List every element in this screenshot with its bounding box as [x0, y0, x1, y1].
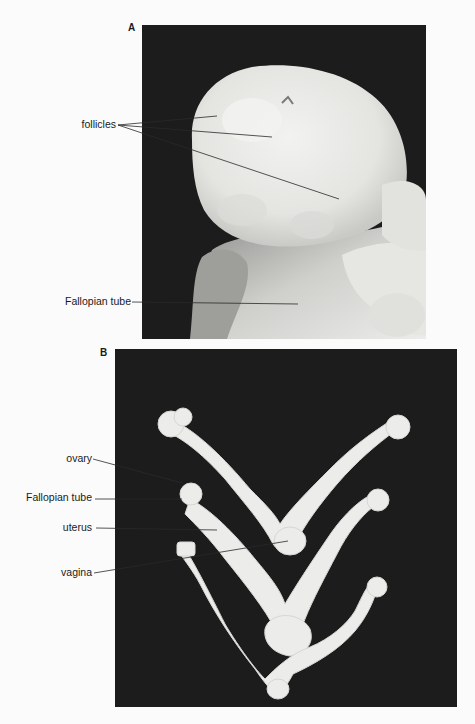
reproductive-tracts-illustration	[115, 349, 457, 707]
label-vagina: vagina	[61, 566, 92, 578]
label-fallopian-tube-a: Fallopian tube	[65, 295, 131, 307]
panel-b-photo	[115, 349, 457, 707]
ovary-photo-illustration	[142, 25, 426, 339]
panel-a-letter: A	[128, 22, 135, 33]
panel-a-photo	[142, 25, 426, 339]
label-uterus: uterus	[63, 521, 92, 533]
panel-b-letter: B	[100, 347, 107, 358]
label-follicles: follicles	[82, 118, 116, 130]
label-fallopian-tube-b: Fallopian tube	[26, 491, 92, 503]
label-ovary: ovary	[66, 452, 92, 464]
